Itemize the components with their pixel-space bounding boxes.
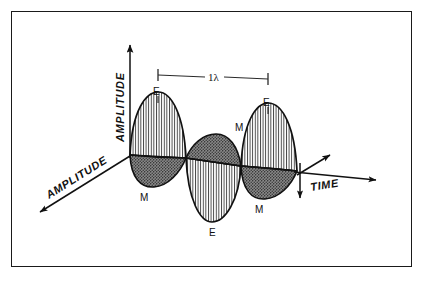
em-wave-diagram: 1λ E M E M E M AMPLITUDE AMPLITUDE TIME bbox=[0, 0, 426, 284]
figure-root: 1λ E M E M E M AMPLITUDE AMPLITUDE TIME bbox=[0, 0, 426, 284]
e-lobe-crest-right bbox=[241, 103, 297, 171]
diagonal-axis-label: AMPLITUDE bbox=[43, 154, 109, 202]
m-lobe-trough-right bbox=[241, 166, 297, 199]
label-e-peak-left: E bbox=[153, 86, 160, 97]
label-m-trough-right: M bbox=[255, 204, 263, 215]
label-e-peak-right: E bbox=[263, 97, 270, 108]
m-lobe-trough-left bbox=[130, 155, 186, 187]
vertical-axis-label: AMPLITUDE bbox=[114, 72, 126, 143]
label-m-trough-left: M bbox=[140, 192, 148, 203]
label-e-trough-mid: E bbox=[209, 227, 216, 238]
diagonal-amplitude-axis-continuation bbox=[297, 155, 330, 175]
time-axis-label: TIME bbox=[309, 177, 339, 193]
wavelength-line-right bbox=[224, 77, 268, 79]
label-m-peak-mid: M bbox=[235, 122, 243, 133]
e-lobe-trough-mid bbox=[186, 158, 241, 222]
wavelength-label: 1λ bbox=[208, 71, 220, 83]
wavelength-line-left bbox=[158, 75, 205, 77]
